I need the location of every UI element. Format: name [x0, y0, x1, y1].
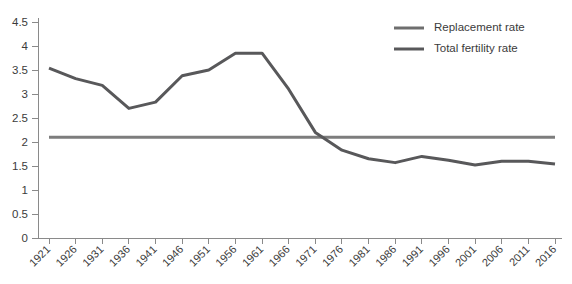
x-tick-label: 1981 [346, 243, 372, 269]
x-tick-label: 1991 [399, 243, 425, 269]
y-tick-label: 4.5 [12, 16, 28, 28]
x-tick-label: 2006 [479, 243, 505, 269]
y-tick-label: 0.5 [12, 208, 28, 220]
x-tick-label: 1971 [293, 243, 319, 269]
x-tick-label: 1976 [320, 243, 346, 269]
y-tick-label: 2.5 [12, 112, 28, 124]
y-tick-label: 1 [22, 184, 28, 196]
legend-label: Total fertility rate [434, 42, 518, 54]
data-series-group [49, 53, 555, 165]
x-tick-label: 2011 [507, 243, 532, 268]
y-tick-label: 3 [22, 88, 28, 100]
fertility-rate-chart: 00.511.522.533.544.5 1921192619311936194… [0, 0, 572, 284]
y-tick-label: 2 [22, 136, 28, 148]
y-tick-label: 4 [22, 40, 29, 52]
x-tick-label: 1936 [107, 243, 133, 269]
x-tick-label: 1946 [160, 243, 186, 269]
legend-label: Replacement rate [434, 21, 525, 33]
x-tick-label: 1931 [80, 243, 106, 269]
x-tick-label: 1926 [53, 243, 79, 269]
x-tick-label: 1996 [426, 243, 452, 269]
x-tick-label: 1986 [373, 243, 399, 269]
y-axis: 00.511.522.533.544.5 [12, 16, 38, 244]
y-tick-label: 1.5 [12, 160, 28, 172]
chart-canvas: 00.511.522.533.544.5 1921192619311936194… [0, 0, 572, 284]
x-tick-label: 1941 [133, 243, 159, 269]
x-tick-label: 1951 [186, 243, 212, 269]
x-tick-label: 2001 [453, 243, 479, 269]
x-tick-label: 1921 [27, 243, 53, 269]
chart-legend: Replacement rateTotal fertility rate [394, 21, 525, 54]
series-line-total-fertility-rate [49, 53, 555, 165]
x-tick-label: 1961 [240, 243, 266, 269]
x-tick-label: 2016 [533, 243, 559, 269]
x-tick-label: 1956 [213, 243, 239, 269]
y-tick-label: 3.5 [12, 64, 28, 76]
x-axis: 1921192619311936194119461951195619611966… [27, 238, 562, 269]
x-tick-label: 1966 [266, 243, 292, 269]
y-tick-label: 0 [22, 232, 28, 244]
